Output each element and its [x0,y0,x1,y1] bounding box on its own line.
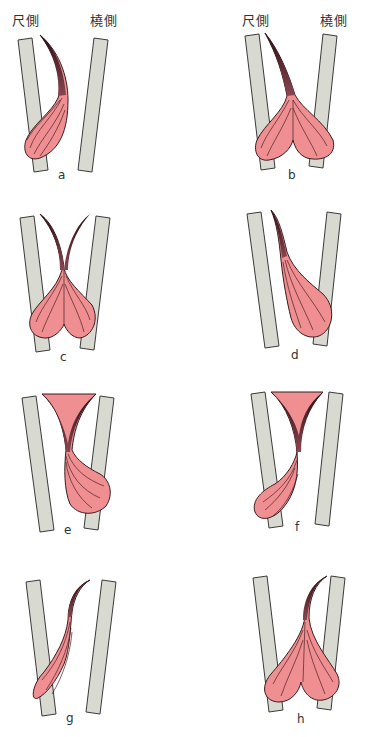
panel-label-h: h [297,712,305,726]
diagram-panel-b: b [183,0,366,190]
muscle-diagram-h [183,560,366,737]
panel-label-f: f [295,520,299,534]
diagram-panel-c: c [0,190,183,380]
diagram-panel-h: h [183,560,366,737]
panel-label-e: e [64,523,71,537]
muscle-diagram-e [0,380,183,560]
diagram-panel-e: e [0,380,183,560]
muscle-diagram-f [183,380,366,560]
muscle-diagram-b [183,0,366,190]
panel-label-d: d [291,348,299,362]
diagram-panel-g: g [0,560,183,737]
panel-label-a: a [58,168,65,182]
panel-label-b: b [288,168,296,182]
diagram-panel-f: f [183,380,366,560]
diagram-panel-a: a [0,0,183,190]
muscle-diagram-c [0,190,183,380]
muscle-diagram-d [183,190,366,380]
diagram-panel-d: d [183,190,366,380]
muscle-diagram-g [0,560,183,737]
panel-label-c: c [60,350,67,364]
muscle-diagram-a [0,0,183,190]
panel-label-g: g [66,711,74,725]
